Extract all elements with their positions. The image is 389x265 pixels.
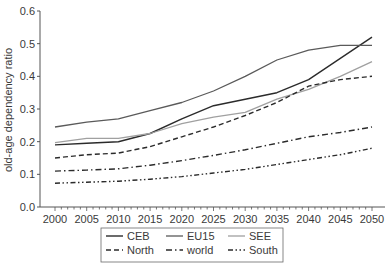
y-tick-label: 0.5 xyxy=(20,38,35,50)
legend-label-eu15: EU15 xyxy=(187,230,215,242)
series-line-world xyxy=(55,127,372,171)
series-lines xyxy=(55,37,372,183)
series-line-eu15 xyxy=(55,45,372,127)
x-tick-label: 2035 xyxy=(265,213,289,225)
y-tick-label: 0.2 xyxy=(20,136,35,148)
x-tick-label: 2005 xyxy=(74,213,98,225)
legend-label-north: North xyxy=(127,244,154,256)
legend-label-ceb: CEB xyxy=(127,230,150,242)
y-axis: 0.00.10.20.30.40.50.6 xyxy=(20,5,40,213)
y-tick-label: 0.0 xyxy=(20,201,35,213)
x-tick-label: 2010 xyxy=(106,213,130,225)
y-tick-label: 0.6 xyxy=(20,5,35,17)
y-tick-label: 0.4 xyxy=(20,70,35,82)
x-tick-label: 2045 xyxy=(328,213,352,225)
y-axis-title: old-age dependency ratio xyxy=(2,48,14,172)
x-tick-label: 2020 xyxy=(170,213,194,225)
x-tick-label: 2015 xyxy=(138,213,162,225)
x-axis: 2000200520102015202020252030203520402045… xyxy=(40,207,385,225)
legend-label-south: South xyxy=(249,244,278,256)
series-line-see xyxy=(55,62,372,143)
y-tick-label: 0.3 xyxy=(20,103,35,115)
x-tick-label: 2040 xyxy=(296,213,320,225)
x-tick-label: 2030 xyxy=(233,213,257,225)
legend-label-see: SEE xyxy=(249,230,271,242)
series-line-south xyxy=(55,148,372,183)
x-tick-label: 2025 xyxy=(201,213,225,225)
legend: CEBEU15SEENorthworldSouth xyxy=(101,228,283,262)
line-chart: 0.00.10.20.30.40.50.6 200020052010201520… xyxy=(0,0,389,265)
legend-label-world: world xyxy=(186,244,213,256)
x-tick-label: 2000 xyxy=(43,213,67,225)
x-tick-label: 2050 xyxy=(360,213,384,225)
y-tick-label: 0.1 xyxy=(20,168,35,180)
